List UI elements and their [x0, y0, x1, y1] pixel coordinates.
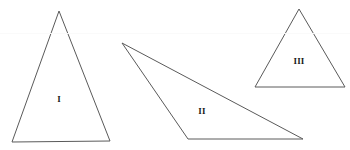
figure-canvas: I II III: [0, 0, 350, 150]
triangle-1-label: I: [57, 94, 61, 104]
triangle-2-label: II: [198, 106, 206, 116]
triangle-1-shape: [12, 11, 110, 142]
triangle-3-shape: [255, 9, 345, 87]
triangle-3-label: III: [293, 56, 304, 66]
triangle-group-1: I: [12, 11, 110, 142]
triangle-group-3: III: [255, 9, 345, 87]
triangles-diagram: I II III: [0, 0, 350, 150]
